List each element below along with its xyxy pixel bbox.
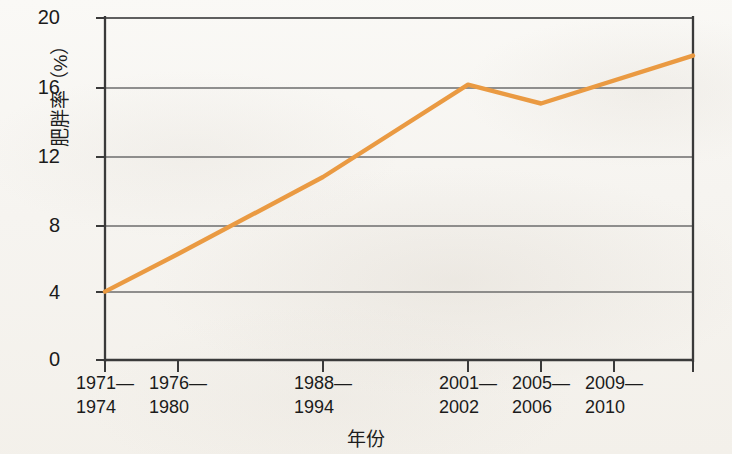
x-tick-line-2: 2010 xyxy=(585,396,643,420)
obesity-rate-line-chart: 肥胖率（%） 20 16 12 8 4 0 xyxy=(0,0,732,454)
x-tick-line-1: 2001— xyxy=(439,372,497,396)
y-axis-ticks xyxy=(96,18,105,360)
x-tick-label-1988-1994: 1988— 1994 xyxy=(294,372,352,420)
x-tick-line-1: 2005— xyxy=(512,372,570,396)
x-tick-line-2: 2006 xyxy=(512,396,570,420)
x-tick-line-2: 2002 xyxy=(439,396,497,420)
x-tick-label-1976-1980: 1976— 1980 xyxy=(149,372,207,420)
x-tick-line-1: 1988— xyxy=(294,372,352,396)
obesity-rate-series-line xyxy=(105,56,693,292)
gridlines xyxy=(105,18,693,292)
x-axis-ticks xyxy=(105,360,693,372)
x-tick-line-1: 1976— xyxy=(149,372,207,396)
x-tick-line-2: 1974 xyxy=(76,396,134,420)
x-tick-line-1: 2009— xyxy=(585,372,643,396)
x-tick-line-2: 1994 xyxy=(294,396,352,420)
x-axis-title: 年份 xyxy=(0,424,732,451)
x-tick-line-1: 1971— xyxy=(76,372,134,396)
x-tick-label-1971-1974: 1971— 1974 xyxy=(76,372,134,420)
x-tick-line-2: 1980 xyxy=(149,396,207,420)
axis-lines xyxy=(104,16,694,362)
x-tick-label-2005-2006: 2005— 2006 xyxy=(512,372,570,420)
x-tick-label-2009-2010: 2009— 2010 xyxy=(585,372,643,420)
x-tick-label-2001-2002: 2001— 2002 xyxy=(439,372,497,420)
